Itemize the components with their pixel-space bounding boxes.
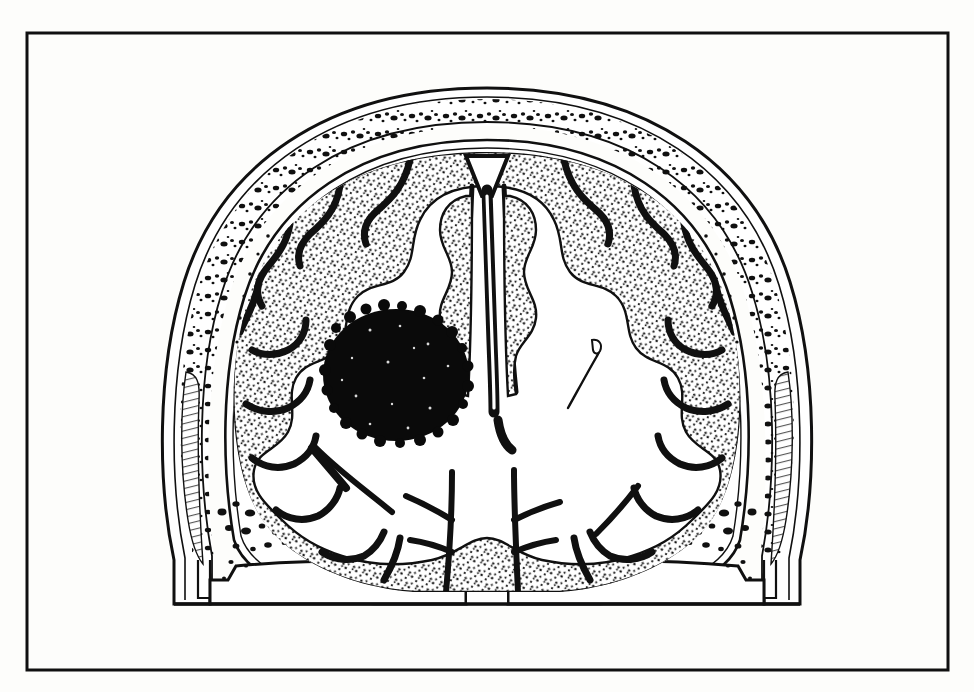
illustration-figure bbox=[0, 0, 974, 692]
brain-coronal-section-drawing bbox=[0, 0, 974, 692]
lateral-ventricle-tip bbox=[592, 340, 601, 354]
